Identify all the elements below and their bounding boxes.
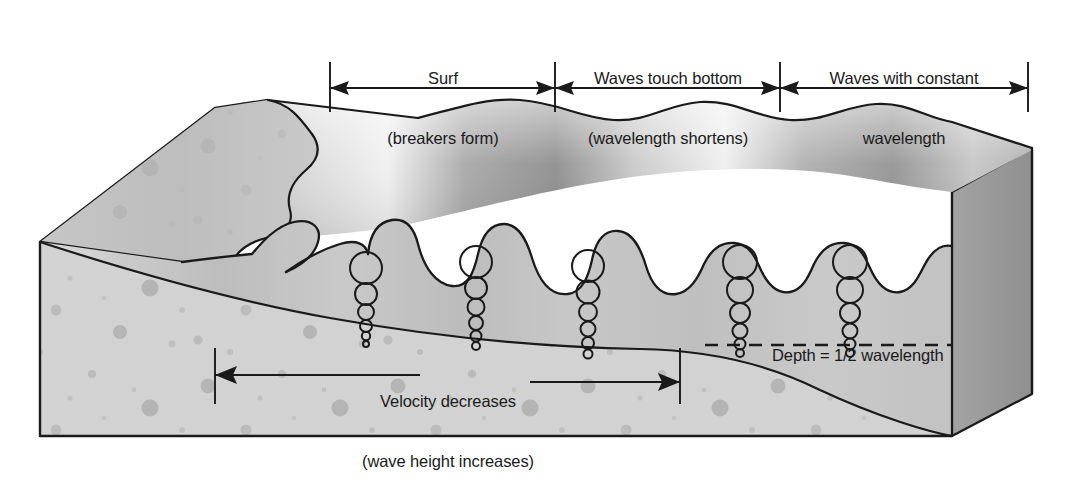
label-surf-line1: Surf: [330, 68, 556, 88]
label-surf-line2: (breakers form): [330, 128, 556, 148]
label-waves-touch-bottom: Waves touch bottom (wavelength shortens): [555, 28, 781, 188]
label-waves-constant-wavelength: Waves with constant wavelength: [780, 28, 1028, 188]
block-right-side-face: [952, 148, 1032, 436]
label-velocity-line2: (wave height increases): [215, 451, 681, 471]
label-touch-line2: (wavelength shortens): [555, 128, 781, 148]
label-constant-line2: wavelength: [780, 128, 1028, 148]
label-touch-line1: Waves touch bottom: [555, 68, 781, 88]
label-velocity-decreases: Velocity decreases (wave height increase…: [215, 351, 681, 498]
label-depth-half-wavelength: Depth = 1/2 wavelength: [772, 345, 1032, 365]
diagram-canvas: Surf (breakers form) Waves touch bottom …: [0, 0, 1077, 498]
label-velocity-line1: Velocity decreases: [215, 391, 681, 411]
label-constant-line1: Waves with constant: [780, 68, 1028, 88]
label-surf: Surf (breakers form): [330, 28, 556, 188]
